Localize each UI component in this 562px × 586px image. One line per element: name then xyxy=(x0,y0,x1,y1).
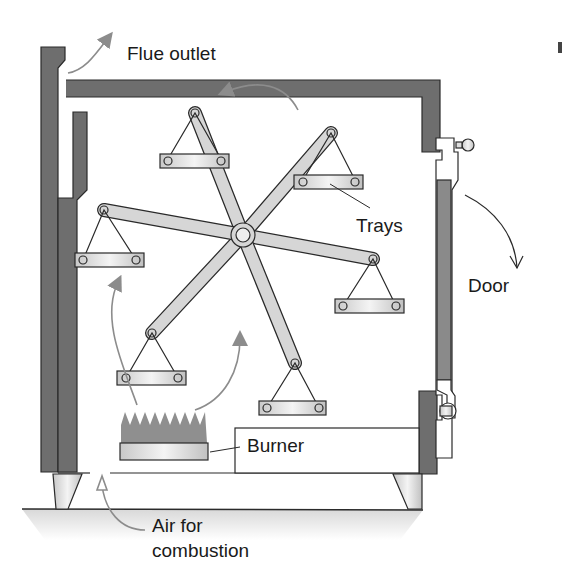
door-handle-knob[interactable] xyxy=(462,139,474,151)
burner xyxy=(120,412,208,460)
label-door: Door xyxy=(468,275,510,296)
flue-channel xyxy=(60,68,66,196)
label-air-line1: Air for xyxy=(152,515,203,536)
top-wall xyxy=(65,80,440,152)
heat-arrow-icon xyxy=(112,282,137,405)
flames xyxy=(121,412,207,443)
ground xyxy=(22,509,423,540)
tray xyxy=(259,359,326,415)
label-trays: Trays xyxy=(356,215,403,236)
door-swing-arrow-icon xyxy=(465,195,517,268)
flue-arrow-icon xyxy=(68,38,108,73)
label-burner: Burner xyxy=(247,435,305,456)
tray xyxy=(335,255,404,313)
edge-mark xyxy=(558,42,562,53)
heat-arrow-icon xyxy=(195,338,240,410)
legs xyxy=(53,474,422,509)
tray-oven-diagram: Flue outlet Trays Door Burner Air for co… xyxy=(0,0,562,586)
label-air-line2: combustion xyxy=(152,540,249,561)
right-lower-wall xyxy=(419,391,437,474)
label-flue-outlet: Flue outlet xyxy=(127,43,216,64)
rotating-wheel xyxy=(104,113,373,363)
oven-floor xyxy=(58,428,419,473)
door[interactable] xyxy=(436,138,474,458)
